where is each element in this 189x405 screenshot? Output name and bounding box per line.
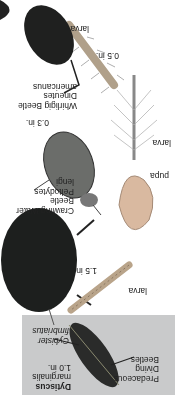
rotated-illustration: Predaceous Diving Beetles Dytiscus margi…: [0, 0, 189, 405]
crawling-larva-icon: [111, 75, 157, 160]
crawling-size: 0.3 in.: [26, 118, 49, 128]
crawling-label: Crawling Water Beetle Peltodytes lengi: [16, 177, 74, 215]
whirligig-larva-label: larva: [71, 24, 89, 34]
dytiscus-larva-label: larva: [129, 286, 147, 296]
whirligig-beetle-icon: [14, 0, 84, 93]
cybister-size: 1.5 in.: [74, 266, 97, 276]
group-title: Predaceous Diving Beetles: [114, 355, 159, 384]
whirligig-size: 0.5 in.: [96, 51, 119, 61]
pupa-icon: [119, 176, 153, 230]
cybister-label: Cybister fimbriatus: [32, 326, 69, 345]
crawling-larva-label: larva: [153, 138, 171, 148]
pupa-label: pupa: [150, 171, 169, 181]
whirligig-label: Whirligig Beetle Dineutes americanus: [18, 82, 77, 111]
dytiscus-label: Dytiscus marginalis 1.0 in.: [32, 363, 71, 392]
